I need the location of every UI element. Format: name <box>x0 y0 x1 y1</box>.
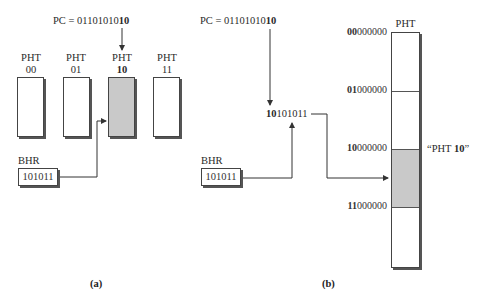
row-rest: 000000 <box>357 26 387 37</box>
bhr-value-a: 101011 <box>19 169 57 185</box>
caption-a: (a) <box>90 278 102 289</box>
bhr-value-b: 101011 <box>202 169 240 185</box>
index-rest: 101011 <box>277 108 308 119</box>
row-bold: 11 <box>348 200 357 211</box>
pc-label-b: PC = 0110101010 <box>200 15 276 27</box>
pht-10-table-selected <box>108 77 135 137</box>
index-value: 10101011 <box>266 108 308 120</box>
selected-region-label: “PHT 10” <box>427 143 469 155</box>
region-label-close: ” <box>464 143 469 154</box>
pht-01-table <box>63 77 90 137</box>
pc-suffix: 10 <box>119 15 130 26</box>
pht-11-label: PHT 11 <box>150 52 184 76</box>
pht-label-bottom: 01 <box>59 64 93 76</box>
region-label-open: “PHT <box>427 143 454 154</box>
pc-label-a: PC = 0110101010 <box>53 15 129 27</box>
pc-suffix: 10 <box>266 15 277 26</box>
pht-label-top: PHT <box>14 52 48 64</box>
pc-prefix: PC = 01101010 <box>53 15 119 26</box>
pht-10-label: PHT 10 <box>105 52 139 76</box>
row-bold: 10 <box>347 142 357 153</box>
bhr-register-a: 101011 <box>18 168 58 186</box>
pht-label-b: PHT <box>391 18 420 30</box>
pht-row-01: 01000000 <box>319 84 387 96</box>
bhr-label-a: BHR <box>18 155 40 167</box>
pht-divider-01 <box>392 91 419 92</box>
pc-prefix: PC = 01101010 <box>200 15 266 26</box>
index-prefix: 10 <box>266 108 277 119</box>
pht-row-10: 10000000 <box>319 142 387 154</box>
pht-row-11: 11000000 <box>319 200 387 212</box>
caption-b: (b) <box>322 278 335 289</box>
pht-00-table <box>17 77 44 137</box>
pht-01-label: PHT 01 <box>59 52 93 76</box>
bhr-register-b: 101011 <box>201 168 241 186</box>
row-bold: 00 <box>347 26 357 37</box>
pht-label-top: PHT <box>105 52 139 64</box>
pht-label-top: PHT <box>59 52 93 64</box>
pht-label-top: PHT <box>150 52 184 64</box>
row-bold: 01 <box>347 84 357 95</box>
pht-selected-region <box>392 149 419 208</box>
pht-11-table <box>153 77 180 137</box>
row-rest: 000000 <box>357 84 387 95</box>
bhr-label-b: BHR <box>201 155 223 167</box>
row-rest: 000000 <box>357 142 387 153</box>
region-label-bold: 10 <box>454 143 465 154</box>
pht-row-00: 00000000 <box>319 26 387 38</box>
pht-00-label: PHT 00 <box>14 52 48 76</box>
row-rest: 000000 <box>357 200 387 211</box>
pht-table-b <box>391 32 420 268</box>
pht-label-bottom: 10 <box>105 64 139 76</box>
pht-label-bottom: 11 <box>150 64 184 76</box>
pht-label-bottom: 00 <box>14 64 48 76</box>
